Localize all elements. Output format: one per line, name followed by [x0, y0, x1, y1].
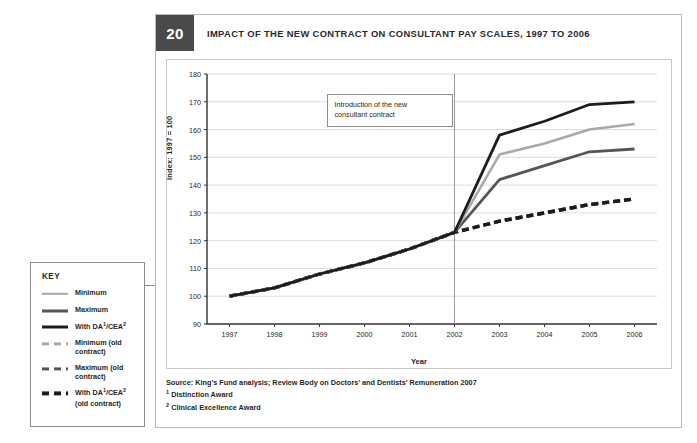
footnote-1-marker: 1 [166, 389, 169, 395]
key-item: With DA1/CEA2(old contract) [42, 387, 144, 408]
y-axis-tick-label: 90 [167, 320, 205, 329]
key-swatch-dashed-icon [42, 364, 68, 374]
figure-title: IMPACT OF THE NEW CONTRACT ON CONSULTANT… [194, 15, 681, 51]
key-item: With DA1/CEA2 [42, 321, 144, 332]
key-item: Maximum [42, 305, 144, 316]
plot-area: Index: 1997 = 100 Year 90100110120130140… [167, 60, 671, 368]
x-axis-tick-label: 1999 [295, 330, 345, 339]
x-axis-tick-label: 2000 [340, 330, 390, 339]
x-axis-tick-label: 2001 [385, 330, 435, 339]
footnote-1: 1 Distinction Award [166, 388, 672, 401]
key-swatch-solid-icon [42, 306, 68, 316]
x-axis-tick-label: 2003 [475, 330, 525, 339]
key-item-label: Maximum (oldcontract) [75, 363, 123, 382]
x-axis-tick-label: 2004 [520, 330, 570, 339]
x-axis-tick-label: 1997 [205, 330, 255, 339]
key-item: Minimum (oldcontract) [42, 338, 144, 357]
key-item: Maximum (oldcontract) [42, 363, 144, 382]
figure-number-badge: 20 [156, 15, 194, 51]
key-item-list: MinimumMaximumWith DA1/CEA2Minimum (oldc… [42, 288, 144, 408]
series-line [230, 149, 635, 296]
x-axis-tick-label: 2002 [430, 330, 480, 339]
footnote-2-marker: 2 [166, 402, 169, 408]
source-note: Source: King’s Fund analysis; Review Bod… [166, 377, 672, 413]
key-item: Minimum [42, 288, 144, 299]
source-line: Source: King’s Fund analysis; Review Bod… [166, 377, 672, 388]
plot-frame: Index: 1997 = 100 Year 90100110120130140… [166, 59, 672, 369]
series-line [230, 102, 635, 296]
footnote-2-text: Clinical Excellence Award [171, 403, 261, 412]
key-legend-box: KEY MinimumMaximumWith DA1/CEA2Minimum (… [30, 262, 145, 427]
footnote-2: 2 Clinical Excellence Award [166, 401, 672, 414]
key-swatch-solid-icon [42, 322, 68, 332]
series-line [230, 124, 635, 296]
key-item-label: Minimum (oldcontract) [75, 338, 122, 357]
y-axis-tick-label: 120 [167, 236, 205, 245]
annotation-callout: Introduction of the newconsultant contra… [327, 94, 453, 127]
y-axis-tick-label: 170 [167, 97, 205, 106]
y-axis-tick-label: 100 [167, 292, 205, 301]
y-axis-tick-label: 110 [167, 264, 205, 273]
x-axis-tick-label: 1998 [250, 330, 300, 339]
x-axis-tick-label: 2005 [565, 330, 615, 339]
footnote-1-text: Distinction Award [171, 391, 233, 400]
y-axis-tick-label: 180 [167, 70, 205, 79]
y-axis-tick-label: 140 [167, 181, 205, 190]
key-item-label: With DA1/CEA2 [75, 321, 126, 332]
key-swatch-dashed-icon [42, 339, 68, 349]
key-swatch-dashed-icon [42, 388, 68, 398]
y-axis-tick-label: 130 [167, 208, 205, 217]
key-item-label: With DA1/CEA2(old contract) [75, 387, 126, 408]
y-axis-tick-label: 160 [167, 125, 205, 134]
figure-header: 20 IMPACT OF THE NEW CONTRACT ON CONSULT… [156, 15, 681, 51]
x-axis-tick-label: 2006 [610, 330, 660, 339]
key-swatch-solid-icon [42, 289, 68, 299]
annotation-line-1: Introduction of the new [335, 100, 445, 110]
y-axis-tick-label: 150 [167, 153, 205, 162]
key-item-label: Maximum [75, 305, 108, 315]
figure-panel: 20 IMPACT OF THE NEW CONTRACT ON CONSULT… [155, 14, 682, 428]
key-item-label: Minimum [75, 288, 107, 298]
key-title: KEY [42, 272, 144, 281]
annotation-line-2: consultant contract [335, 110, 445, 120]
